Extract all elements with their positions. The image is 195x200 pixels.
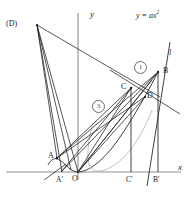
diagram-canvas: (D) y x y = ax2 l B C D A A' O C' B' 1 3 [0, 0, 195, 200]
chord-O-to-upper [78, 80, 152, 172]
curve-equation-text: y = ax [136, 11, 157, 20]
chords-from-O [78, 72, 158, 172]
point-label-A: A [48, 152, 54, 160]
secant-through-C-D [110, 70, 180, 114]
chord-O-to-C [78, 88, 131, 172]
curve-equation-label: y = ax2 [136, 10, 159, 20]
point-label-B: B [163, 67, 168, 75]
dot-B [157, 71, 159, 73]
point-label-D-outer: (D) [6, 20, 17, 28]
chords-from-D [37, 25, 160, 172]
axis-label-x: x [178, 163, 182, 172]
dot-D [144, 96, 146, 98]
chord-D-to-Aprime [37, 25, 62, 172]
axis-label-y: y [90, 10, 94, 19]
chord-O-to-D [78, 97, 145, 172]
chord-Aprime-to-B [61, 72, 158, 172]
marker-three-badge: 3 [92, 100, 105, 113]
chord-D-to-Ofoot [37, 25, 71, 170]
chord-D-to-O [37, 25, 78, 172]
line-label-l: l [169, 49, 171, 57]
drop-lines [131, 72, 158, 172]
point-label-B-prime: B' [153, 176, 159, 184]
point-label-C-prime: C' [126, 176, 132, 184]
point-label-A-prime: A' [56, 176, 63, 184]
chord-A-to-C [57, 88, 131, 158]
chord-A-to-B [57, 72, 158, 158]
marker-one-badge: 1 [134, 61, 147, 74]
point-label-O: O [72, 175, 78, 183]
dot-O [77, 171, 79, 173]
dot-C [130, 87, 132, 89]
dot-D-outer [36, 24, 38, 26]
point-label-C: C [121, 83, 126, 91]
point-label-D: D [147, 92, 153, 100]
curve-equation-exponent: 2 [157, 9, 160, 15]
dot-A [56, 157, 58, 159]
